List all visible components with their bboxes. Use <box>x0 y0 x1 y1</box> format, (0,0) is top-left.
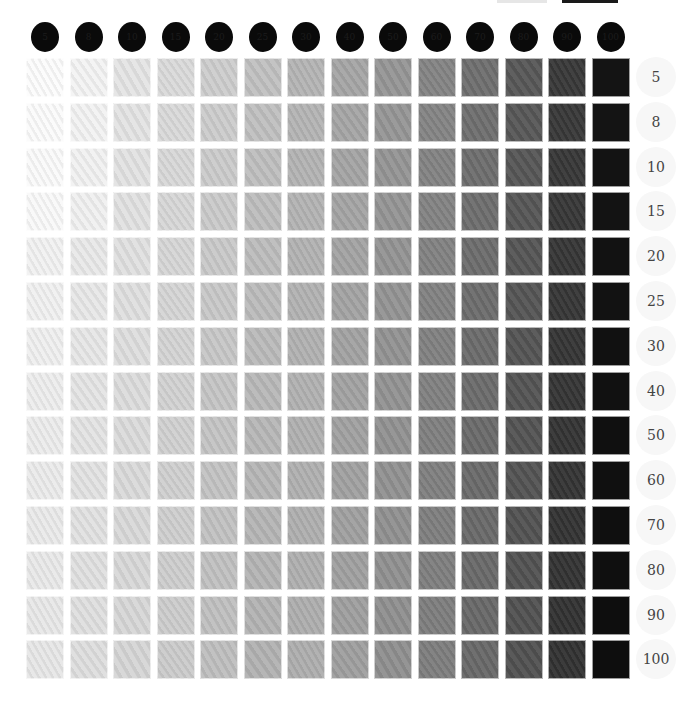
swatch-cell <box>113 58 151 97</box>
swatch-cell <box>418 506 456 545</box>
swatch-cell <box>331 551 369 590</box>
swatch-cell <box>374 461 412 500</box>
swatch-cell <box>200 461 238 500</box>
swatch-cell <box>505 237 543 276</box>
swatch-cell <box>461 416 499 455</box>
swatch-cell <box>592 192 630 231</box>
swatch-cell <box>26 551 64 590</box>
swatch-cell <box>548 148 586 187</box>
column-header-circle: 30 <box>292 22 320 52</box>
swatch-cell <box>287 282 325 321</box>
swatch-cell <box>592 327 630 366</box>
swatch-cell <box>331 596 369 635</box>
swatch-cell <box>157 282 195 321</box>
swatch-cell <box>157 596 195 635</box>
column-header-circle: 100 <box>597 22 625 52</box>
swatch-cell <box>157 461 195 500</box>
swatch-cell <box>505 416 543 455</box>
swatch-cell <box>418 461 456 500</box>
swatch-cell <box>244 148 282 187</box>
swatch-cell <box>331 192 369 231</box>
column-header-circle: 60 <box>423 22 451 52</box>
row-label: 50 <box>636 415 676 455</box>
swatch-cell <box>113 327 151 366</box>
swatch-cell <box>70 282 108 321</box>
row-label: 20 <box>636 236 676 276</box>
swatch-cell <box>331 327 369 366</box>
swatch-cell <box>70 237 108 276</box>
swatch-cell <box>244 327 282 366</box>
swatch-cell <box>461 237 499 276</box>
swatch-cell <box>592 58 630 97</box>
swatch-cell <box>418 372 456 411</box>
swatch-cell <box>244 58 282 97</box>
row-label: 100 <box>636 639 676 679</box>
swatch-cell <box>244 551 282 590</box>
row-label: 8 <box>636 102 676 142</box>
swatch-cell <box>418 58 456 97</box>
swatch-cell <box>200 148 238 187</box>
row-label: 90 <box>636 595 676 635</box>
swatch-cell <box>287 58 325 97</box>
swatch-cell <box>418 327 456 366</box>
swatch-cell <box>548 372 586 411</box>
swatch-cell <box>157 103 195 142</box>
swatch-cell <box>461 192 499 231</box>
swatch-cell <box>505 148 543 187</box>
swatch-cell <box>505 58 543 97</box>
swatch-cell <box>548 506 586 545</box>
swatch-cell <box>548 551 586 590</box>
swatch-cell <box>505 640 543 679</box>
column-header-circle: 10 <box>118 22 146 52</box>
swatch-cell <box>26 282 64 321</box>
swatch-cell <box>461 506 499 545</box>
swatch-cell <box>461 640 499 679</box>
swatch-cell <box>374 506 412 545</box>
swatch-cell <box>244 192 282 231</box>
column-header-circle: 15 <box>162 22 190 52</box>
column-header-circle: 70 <box>466 22 494 52</box>
swatch-cell <box>157 551 195 590</box>
column-header-circle: 25 <box>249 22 277 52</box>
swatch-cell <box>157 192 195 231</box>
swatch-cell <box>70 506 108 545</box>
row-label: 30 <box>636 326 676 366</box>
swatch-cell <box>200 551 238 590</box>
swatch-cell <box>374 416 412 455</box>
swatch-cell <box>70 327 108 366</box>
swatch-cell <box>287 372 325 411</box>
swatch-cell <box>70 461 108 500</box>
swatch-cell <box>287 596 325 635</box>
swatch-cell <box>113 103 151 142</box>
swatch-cell <box>157 58 195 97</box>
swatch-cell <box>548 192 586 231</box>
swatch-cell <box>592 237 630 276</box>
swatch-cell <box>331 461 369 500</box>
swatch-cell <box>26 506 64 545</box>
swatch-cell <box>331 640 369 679</box>
swatch-cell <box>548 237 586 276</box>
swatch-cell <box>26 461 64 500</box>
swatch-cell <box>113 237 151 276</box>
swatch-cell <box>461 103 499 142</box>
swatch-cell <box>374 551 412 590</box>
swatch-cell <box>113 372 151 411</box>
swatch-cell <box>505 461 543 500</box>
swatch-cell <box>70 640 108 679</box>
swatch-cell <box>287 148 325 187</box>
swatch-cell <box>26 327 64 366</box>
row-label: 60 <box>636 460 676 500</box>
swatch-cell <box>592 372 630 411</box>
swatch-cell <box>113 416 151 455</box>
swatch-cell <box>287 103 325 142</box>
swatch-cell <box>461 372 499 411</box>
swatch-cell <box>592 551 630 590</box>
column-header-circle: 50 <box>379 22 407 52</box>
swatch-cell <box>505 506 543 545</box>
swatch-cell <box>374 148 412 187</box>
row-label: 15 <box>636 191 676 231</box>
swatch-cell <box>113 282 151 321</box>
swatch-cell <box>244 596 282 635</box>
swatch-cell <box>157 237 195 276</box>
swatch-cell <box>592 596 630 635</box>
